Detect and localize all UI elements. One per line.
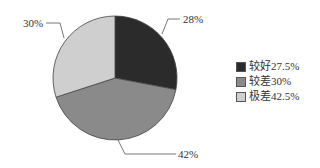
leader-line-28 xyxy=(162,19,180,34)
slice-label-30: 30% xyxy=(23,17,43,29)
slice-label-28: 28% xyxy=(183,13,203,25)
legend: 较好27.5% 较差30% 极差42.5% xyxy=(236,59,299,104)
legend-swatch-icon xyxy=(236,62,246,72)
legend-item-poor: 较差30% xyxy=(236,74,299,89)
pie-slices xyxy=(53,16,177,140)
legend-label: 较差30% xyxy=(249,74,291,89)
leader-line-30 xyxy=(46,23,64,38)
pie-slice-较好 xyxy=(115,16,177,90)
legend-label: 极差42.5% xyxy=(249,89,299,104)
legend-swatch-icon xyxy=(236,77,246,87)
leader-line-42 xyxy=(118,140,176,154)
legend-item-very-poor: 极差42.5% xyxy=(236,89,299,104)
legend-label: 较好27.5% xyxy=(249,59,299,74)
legend-swatch-icon xyxy=(236,92,246,102)
slice-label-42: 42% xyxy=(178,148,198,160)
legend-item-good: 较好27.5% xyxy=(236,59,299,74)
